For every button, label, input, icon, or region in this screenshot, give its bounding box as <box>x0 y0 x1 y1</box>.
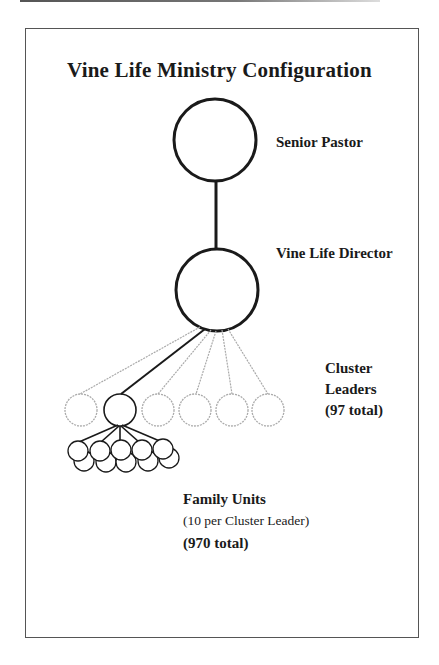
director-label: Vine Life Director <box>276 243 393 264</box>
family-node <box>90 441 110 461</box>
org-chart <box>0 0 439 665</box>
cluster-leaders-line1: Cluster <box>325 358 383 379</box>
family-node <box>111 440 131 460</box>
senior-pastor-node <box>174 99 256 181</box>
director-node <box>176 249 258 331</box>
family-units-ratio: (10 per Cluster Leader) <box>183 510 309 532</box>
cluster-leaders-total: (97 total) <box>325 400 383 421</box>
family-units-label: Family Units (10 per Cluster Leader) (97… <box>183 488 309 554</box>
family-node <box>132 440 152 460</box>
cluster-leaders-label: Cluster Leaders (97 total) <box>325 358 383 421</box>
cluster-leader-nodes <box>65 394 284 426</box>
family-unit-nodes <box>68 439 179 472</box>
senior-pastor-label: Senior Pastor <box>276 132 363 153</box>
cluster-node <box>179 394 211 426</box>
cluster-node <box>252 394 284 426</box>
cluster-node-highlighted <box>104 394 136 426</box>
family-units-title: Family Units <box>183 488 309 510</box>
director-cluster-connectors <box>80 327 268 394</box>
family-units-total: (970 total) <box>183 532 309 554</box>
cluster-node <box>142 394 174 426</box>
cluster-leaders-line2: Leaders <box>325 379 383 400</box>
family-node <box>68 441 88 461</box>
cluster-node <box>65 394 97 426</box>
family-node <box>153 439 173 459</box>
cluster-node <box>216 394 248 426</box>
